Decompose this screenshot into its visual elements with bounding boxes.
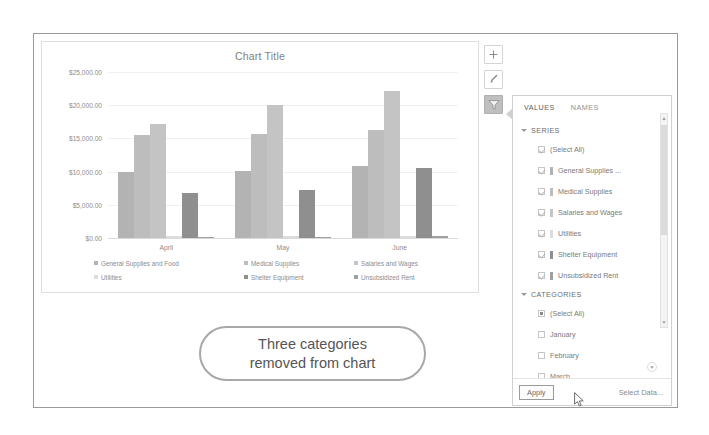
filter-option-row[interactable]: Salaries and Wages [513, 202, 671, 223]
scroll-more-button[interactable]: ▼ [647, 362, 657, 372]
y-axis-tick-label: $15,000.00 [69, 135, 102, 142]
plot-area: $25,000.00$20,000.00$15,000.00$10,000.00… [108, 72, 458, 238]
filter-option-label: Unsubsidized Rent [558, 271, 618, 280]
bar[interactable] [235, 171, 251, 238]
panel-tab-names[interactable]: NAMES [571, 103, 599, 112]
bar-group[interactable]: June [341, 72, 458, 238]
section-header-categories[interactable]: CATEGORIES [513, 286, 671, 303]
filter-option-row[interactable]: Medical Supplies [513, 181, 671, 202]
filter-option-row[interactable]: General Supplies ... [513, 160, 671, 181]
filter-option-row[interactable]: Shelter Equipment [513, 244, 671, 265]
bar-group[interactable]: April [108, 72, 225, 238]
legend-item[interactable]: Unsubsidized Rent [354, 270, 434, 284]
y-axis-tick-label: $5,000.00 [73, 201, 102, 208]
callout-line-2: removed from chart [250, 354, 376, 373]
filter-option-row[interactable]: (Select All) [513, 303, 671, 324]
chart-filters-panel[interactable]: VALUESNAMES SERIES(Select All)General Su… [512, 95, 672, 406]
legend-item[interactable]: Shelter Equipment [244, 270, 354, 284]
checkbox[interactable] [538, 209, 545, 216]
legend-item[interactable]: Medical Supplies [244, 256, 354, 270]
bar-group[interactable]: May [225, 72, 342, 238]
filter-option-row[interactable]: Utilities [513, 223, 671, 244]
legend-label: General Supplies and Food [101, 260, 179, 267]
bar[interactable] [283, 236, 299, 238]
chart-filters-button[interactable] [484, 95, 503, 114]
filter-option-label: February [550, 351, 579, 360]
bar[interactable] [198, 237, 214, 238]
callout-line-1: Three categories [258, 335, 367, 354]
series-color-swatch-icon [550, 209, 553, 217]
paintbrush-icon [488, 74, 499, 85]
panel-footer: Apply Select Data... [513, 378, 671, 405]
filter-option-label: Medical Supplies [558, 187, 612, 196]
bar[interactable] [251, 134, 267, 238]
legend-swatch-icon [354, 261, 358, 265]
filter-option-label: Utilities [558, 229, 581, 238]
checkbox[interactable] [538, 251, 545, 258]
bar[interactable] [166, 236, 182, 238]
x-axis-category-label: June [341, 244, 458, 251]
bar[interactable] [182, 193, 198, 238]
panel-tab-values[interactable]: VALUES [524, 103, 555, 112]
checkbox[interactable] [538, 352, 545, 359]
select-data-link[interactable]: Select Data... [619, 388, 663, 397]
document-page: Chart Title $25,000.00$20,000.00$15,000.… [33, 33, 678, 408]
series-color-swatch-icon [550, 251, 553, 259]
bar[interactable] [299, 190, 315, 238]
filter-option-label: (Select All) [550, 145, 584, 154]
chart-legend[interactable]: General Supplies and FoodMedical Supplie… [94, 256, 434, 284]
bar[interactable] [416, 168, 432, 238]
y-axis-tick-label: $20,000.00 [69, 102, 102, 109]
chart-title[interactable]: Chart Title [42, 50, 478, 62]
panel-body: SERIES(Select All)General Supplies ...Me… [513, 122, 671, 378]
chart-elements-button[interactable] [484, 45, 503, 64]
legend-label: Shelter Equipment [251, 274, 304, 281]
checkbox[interactable] [538, 310, 545, 317]
bar[interactable] [368, 130, 384, 238]
bar[interactable] [134, 135, 150, 238]
bar[interactable] [118, 172, 134, 238]
filter-option-row[interactable]: (Select All) [513, 139, 671, 160]
scroll-down-arrow[interactable]: ▼ [661, 319, 667, 326]
legend-label: Unsubsidized Rent [361, 274, 415, 281]
legend-item[interactable]: General Supplies and Food [94, 256, 244, 270]
filter-option-label: (Select All) [550, 309, 584, 318]
bar[interactable] [315, 237, 331, 238]
checkbox[interactable] [538, 230, 545, 237]
scroll-up-arrow[interactable]: ▲ [661, 115, 667, 122]
legend-item[interactable]: Utilities [94, 270, 244, 284]
chart-object[interactable]: Chart Title $25,000.00$20,000.00$15,000.… [41, 41, 479, 293]
panel-scrollbar[interactable]: ▲ ▼ [660, 113, 668, 328]
chart-styles-button[interactable] [484, 70, 503, 89]
bar[interactable] [400, 236, 416, 238]
checkbox[interactable] [538, 331, 545, 338]
bar[interactable] [384, 91, 400, 238]
bar[interactable] [267, 105, 283, 238]
legend-swatch-icon [354, 275, 358, 279]
section-header-series[interactable]: SERIES [513, 122, 671, 139]
bar[interactable] [150, 124, 166, 238]
checkbox[interactable] [538, 167, 545, 174]
filter-option-row[interactable]: Unsubsidized Rent [513, 265, 671, 286]
gridline [108, 238, 458, 239]
legend-item[interactable]: Salaries and Wages [354, 256, 434, 270]
panel-tabs: VALUESNAMES [513, 96, 671, 116]
apply-button[interactable]: Apply [519, 385, 554, 400]
y-axis-tick-label: $10,000.00 [69, 168, 102, 175]
scrollbar-thumb[interactable] [661, 125, 667, 235]
expand-triangle-icon [521, 293, 527, 296]
legend-swatch-icon [94, 275, 98, 279]
funnel-icon [488, 99, 500, 111]
filter-option-label: January [550, 330, 576, 339]
bar[interactable] [432, 236, 448, 238]
checkbox[interactable] [538, 146, 545, 153]
filter-option-row[interactable]: January [513, 324, 671, 345]
annotation-callout: Three categories removed from chart [199, 326, 426, 381]
bar[interactable] [352, 166, 368, 238]
plus-icon [489, 50, 498, 59]
filter-option-label: Shelter Equipment [558, 250, 617, 259]
y-axis-tick-label: $25,000.00 [69, 69, 102, 76]
legend-swatch-icon [94, 261, 98, 265]
checkbox[interactable] [538, 188, 545, 195]
checkbox[interactable] [538, 272, 545, 279]
